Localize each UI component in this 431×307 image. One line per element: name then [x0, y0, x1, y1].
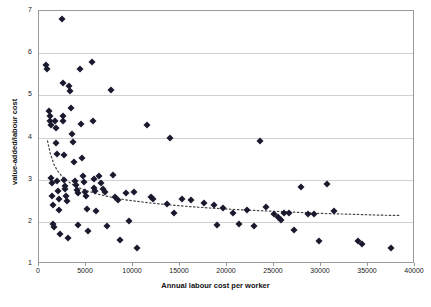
x-axis-tick-label: 40000 — [394, 267, 431, 275]
x-axis-tick-label: 35000 — [347, 267, 387, 275]
gridline-horizontal — [39, 222, 413, 223]
y-axis-tick-label: 7 — [2, 6, 32, 14]
x-axis-tickmark — [273, 263, 274, 266]
x-axis-tick-label: 15000 — [159, 267, 199, 275]
y-axis-tick-label: 4 — [2, 133, 32, 141]
y-axis-title: value-added/labour cost — [10, 98, 19, 184]
x-axis-tick-label: 5000 — [65, 267, 105, 275]
x-axis-tick-label: 0 — [18, 267, 58, 275]
y-axis-tick-label: 2 — [2, 217, 32, 225]
x-axis-tickmark — [414, 263, 415, 266]
x-axis-tickmark — [226, 263, 227, 266]
x-axis-tick-label: 25000 — [253, 267, 293, 275]
gridline-horizontal — [39, 95, 413, 96]
y-axis-tick-label: 6 — [2, 48, 32, 56]
x-axis-tickmark — [85, 263, 86, 266]
x-axis-title: Annual labour cost per worker — [0, 281, 431, 290]
x-axis-tickmark — [179, 263, 180, 266]
gridline-horizontal — [39, 138, 413, 139]
x-axis-tick-label: 20000 — [206, 267, 246, 275]
x-axis-tickmark — [367, 263, 368, 266]
x-axis-tick-label: 10000 — [112, 267, 152, 275]
gridline-horizontal — [39, 53, 413, 54]
x-axis-tickmark — [132, 263, 133, 266]
x-axis-tickmark — [320, 263, 321, 266]
y-axis-tick-label: 1 — [2, 259, 32, 267]
x-axis-tickmark — [38, 263, 39, 266]
y-axis-tick-label: 5 — [2, 90, 32, 98]
scatter-chart: value-added/labour cost Annual labour co… — [0, 0, 431, 307]
plot-area — [38, 10, 414, 263]
y-axis-tick-label: 3 — [2, 175, 32, 183]
x-axis-tick-label: 30000 — [300, 267, 340, 275]
